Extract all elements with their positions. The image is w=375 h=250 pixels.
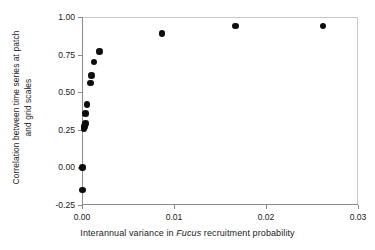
- y-tick-label: 0.50: [58, 87, 75, 97]
- data-point: [96, 48, 103, 55]
- y-tick-label: 1.00: [58, 12, 75, 22]
- y-tick-label: -0.25: [55, 200, 75, 210]
- y-tick-label: 0.00: [58, 162, 75, 172]
- y-axis-title-line1: Correlation between time series at patch: [12, 31, 22, 185]
- x-tick-label: 0.02: [258, 212, 275, 222]
- x-tick-mark: [82, 205, 83, 209]
- data-point: [84, 101, 91, 108]
- data-point: [79, 164, 86, 171]
- data-point: [320, 23, 327, 30]
- y-tick-mark: [78, 92, 82, 93]
- data-point: [91, 59, 98, 66]
- x-axis-title-before: Interannual variance in: [80, 228, 176, 238]
- y-axis-title: Correlation between time series at patch…: [0, 0, 46, 215]
- x-tick-label: 0.01: [166, 212, 183, 222]
- plot-area: -0.250.000.250.500.751.00 0.000.010.020.…: [82, 17, 358, 205]
- axis-spine-right: [357, 17, 358, 205]
- x-axis-title-italic-species: Fucus: [176, 228, 201, 238]
- x-tick-label: 0.00: [74, 212, 91, 222]
- x-tick-mark: [174, 205, 175, 209]
- data-point: [88, 72, 95, 79]
- y-tick-mark: [78, 55, 82, 56]
- axis-spine-bottom: [82, 204, 358, 205]
- axis-spine-top: [82, 17, 358, 18]
- data-point: [82, 120, 89, 127]
- data-point: [79, 187, 86, 194]
- data-point: [82, 110, 89, 117]
- y-tick-mark: [78, 17, 82, 18]
- y-axis-title-line2: and grid scales: [23, 31, 35, 185]
- data-point: [232, 23, 239, 30]
- y-tick-label: 0.25: [58, 125, 75, 135]
- x-tick-label: 0.03: [350, 212, 367, 222]
- y-tick-label: 0.75: [58, 50, 75, 60]
- data-point: [87, 80, 94, 87]
- x-axis-title: Interannual variance in Fucus recruitmen…: [0, 228, 375, 238]
- x-tick-mark: [358, 205, 359, 209]
- data-point: [159, 30, 166, 37]
- x-tick-mark: [266, 205, 267, 209]
- x-axis-title-after: recruitment probability: [201, 228, 294, 238]
- scatter-plot-figure: Correlation between time series at patch…: [0, 0, 375, 250]
